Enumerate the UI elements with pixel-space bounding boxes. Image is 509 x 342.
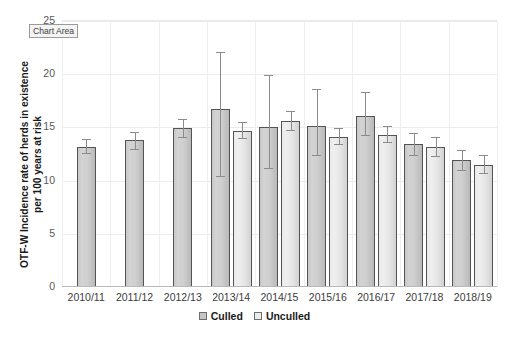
error-bar	[462, 150, 463, 170]
legend: CulledUnculled	[0, 310, 509, 322]
x-axis-tick-label: 2010/11	[62, 291, 110, 303]
error-bar	[242, 122, 243, 138]
legend-swatch-icon	[254, 312, 262, 320]
y-axis-tick-label: 5	[49, 227, 55, 238]
gridline-horizontal	[62, 127, 497, 128]
bar-culled-2011-12	[125, 140, 144, 287]
bottom-margin	[0, 330, 509, 342]
error-bar-cap-lower	[130, 149, 139, 150]
error-bar	[339, 128, 340, 144]
error-bar-cap-lower	[82, 153, 91, 154]
legend-item-culled[interactable]: Culled	[199, 310, 243, 322]
gridline-vertical	[62, 21, 63, 287]
error-bar-cap-upper	[82, 139, 91, 140]
error-bar-cap-upper	[312, 89, 321, 90]
bar-culled-2016-17	[356, 116, 375, 287]
gridline-vertical	[497, 21, 498, 287]
y-axis-tick-label: 15	[43, 121, 55, 132]
y-axis-tick-label: 20	[43, 68, 55, 79]
error-bar-cap-lower	[286, 130, 295, 131]
bar-culled-2012-13	[173, 128, 192, 287]
error-bar-cap-lower	[216, 176, 225, 177]
error-bar-cap-lower	[479, 173, 488, 174]
error-bar	[317, 89, 318, 155]
gridline-horizontal	[62, 74, 497, 75]
error-bar	[387, 126, 388, 142]
legend-item-label: Unculled	[266, 310, 310, 322]
x-axis-tick-label: 2014/15	[255, 291, 303, 303]
error-bar-cap-upper	[238, 122, 247, 123]
bar-culled-2010-11	[77, 147, 96, 287]
x-axis-tick-label: 2012/13	[159, 291, 207, 303]
error-bar	[135, 132, 136, 149]
error-bar-cap-upper	[178, 119, 187, 120]
bar-culled-2017-18	[404, 144, 423, 287]
error-bar-cap-upper	[216, 52, 225, 53]
legend-item-label: Culled	[211, 310, 243, 322]
error-bar-cap-lower	[457, 170, 466, 171]
error-bar-cap-upper	[361, 92, 370, 93]
bar-unculled-2017-18	[426, 147, 445, 287]
gridline-vertical	[159, 21, 160, 287]
x-axis-tick-label: 2017/18	[400, 291, 448, 303]
error-bar	[291, 111, 292, 129]
x-axis-tick-label: 2015/16	[304, 291, 352, 303]
error-bar-cap-lower	[312, 155, 321, 156]
error-bar-cap-upper	[409, 133, 418, 134]
chart-screenshot: 0510152025 OTF-W Incidence rate of herds…	[0, 0, 509, 342]
gridline-vertical	[352, 21, 353, 287]
error-bar	[269, 75, 270, 168]
error-bar-cap-upper	[457, 150, 466, 151]
error-bar	[484, 155, 485, 173]
bar-unculled-2016-17	[378, 135, 397, 287]
x-axis-tick-label: 2011/12	[110, 291, 158, 303]
x-axis-tick-label: 2018/19	[449, 291, 497, 303]
error-bar-cap-upper	[130, 132, 139, 133]
error-bar-cap-lower	[264, 168, 273, 169]
error-bar-cap-lower	[409, 155, 418, 156]
error-bar-cap-lower	[238, 138, 247, 139]
bar-unculled-2014-15	[281, 121, 300, 287]
gridline-vertical	[255, 21, 256, 287]
error-bar	[436, 137, 437, 156]
x-axis-tick-label: 2016/17	[352, 291, 400, 303]
x-axis-tick-label: 2013/14	[207, 291, 255, 303]
error-bar-cap-lower	[361, 135, 370, 136]
error-bar-cap-upper	[431, 137, 440, 138]
y-axis-title: OTF-W Incidence rate of herds in existen…	[19, 60, 44, 270]
error-bar-cap-lower	[178, 137, 187, 138]
error-bar	[183, 119, 184, 137]
legend-item-unculled[interactable]: Unculled	[254, 310, 310, 322]
error-bar-cap-upper	[264, 75, 273, 76]
error-bar-cap-upper	[286, 111, 295, 112]
chart-area-tooltip: Chart Area	[29, 24, 78, 38]
error-bar-cap-upper	[383, 126, 392, 127]
gridline-vertical	[207, 21, 208, 287]
error-bar-cap-lower	[431, 156, 440, 157]
gridline-vertical	[110, 21, 111, 287]
y-axis-tick-label: 0	[49, 281, 55, 292]
x-axis-line	[62, 286, 497, 287]
bar-unculled-2015-16	[329, 137, 348, 287]
error-bar-cap-upper	[334, 128, 343, 129]
error-bar	[414, 133, 415, 155]
error-bar	[365, 92, 366, 135]
error-bar	[220, 52, 221, 176]
error-bar-cap-upper	[479, 155, 488, 156]
gridline-vertical	[304, 21, 305, 287]
error-bar	[86, 139, 87, 153]
plot-area	[62, 20, 497, 287]
gridline-horizontal	[62, 21, 497, 22]
y-axis-tick-label: 10	[43, 174, 55, 185]
error-bar-cap-lower	[383, 142, 392, 143]
legend-swatch-icon	[199, 312, 207, 320]
bar-unculled-2018-19	[474, 165, 493, 287]
bar-unculled-2013-14	[233, 131, 252, 287]
gridline-vertical	[400, 21, 401, 287]
error-bar-cap-lower	[334, 144, 343, 145]
gridline-vertical	[449, 21, 450, 287]
bar-culled-2018-19	[452, 160, 471, 287]
